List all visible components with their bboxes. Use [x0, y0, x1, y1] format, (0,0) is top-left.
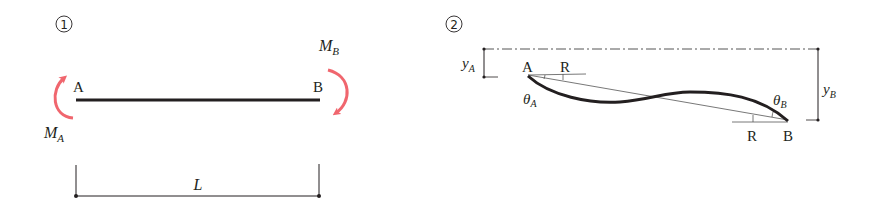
ya-dimension: yA [460, 47, 498, 78]
length-dimension: L [74, 164, 321, 198]
label-b: B [783, 128, 793, 144]
label-a: A [522, 59, 533, 75]
panel-2: 2 yA yB [446, 16, 836, 144]
diagram-canvas: 1 A B MA MB L 2 [0, 0, 872, 214]
theta-a-label: θA [523, 91, 537, 109]
panel-number-text: 2 [450, 18, 458, 32]
length-label: L [193, 176, 203, 193]
yb-dimension: yB [806, 47, 836, 121]
tangent-ref-a [528, 74, 586, 75]
panel-number-2: 2 [446, 16, 462, 32]
panel-number-1: 1 [56, 16, 72, 32]
label-a: A [73, 79, 84, 95]
panel-1: 1 A B MA MB L [43, 16, 347, 198]
moment-b-arrow-icon [328, 70, 347, 113]
theta-a-arc [544, 75, 545, 79]
moment-a-arrow-icon [55, 78, 73, 118]
yb-label: yB [821, 81, 836, 100]
label-r-right: R [747, 128, 757, 144]
moment-a-label: MA [43, 124, 64, 144]
label-b: B [313, 79, 323, 95]
theta-b-label: θB [773, 92, 786, 110]
ya-label: yA [460, 55, 476, 74]
moment-b-label: MB [318, 37, 339, 57]
panel-number-text: 1 [60, 18, 68, 32]
label-r-left: R [560, 59, 570, 75]
deflected-beam-curve [528, 76, 788, 121]
